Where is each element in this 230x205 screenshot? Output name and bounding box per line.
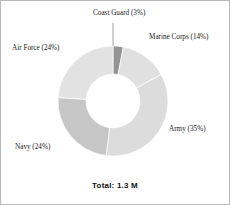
donut-slice-group	[58, 46, 168, 156]
slice-label-air-force: Air Force (24%)	[12, 45, 60, 52]
slice-label-coast-guard: Coast Guard (3%)	[93, 10, 145, 17]
slice-label-marine-corps: Marine Corps (14%)	[149, 34, 208, 41]
total-caption: Total: 1.3 M	[1, 181, 229, 190]
donut-chart-figure: Coast Guard (3%) Marine Corps (14%) Army…	[0, 0, 230, 205]
donut-chart-canvas	[1, 1, 230, 205]
donut-slice-air-force[interactable]	[58, 46, 113, 99]
donut-slice-navy[interactable]	[58, 98, 110, 156]
donut-chart-svg	[1, 1, 230, 205]
slice-label-navy: Navy (24%)	[15, 144, 50, 151]
slice-label-army: Army (35%)	[169, 126, 206, 133]
